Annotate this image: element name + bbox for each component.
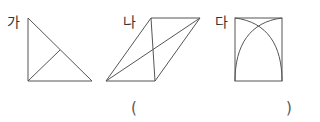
answer-blank[interactable] bbox=[145, 101, 285, 117]
rectangle-arc-right bbox=[235, 18, 282, 81]
figure-da bbox=[235, 18, 282, 81]
rectangle-outline bbox=[235, 18, 282, 81]
answer-close-paren: ) bbox=[286, 101, 292, 116]
figure-ga bbox=[28, 18, 92, 81]
figure-na bbox=[106, 18, 200, 81]
rectangle-arc-left bbox=[235, 18, 282, 81]
answer-open-paren: ( bbox=[131, 101, 137, 116]
triangle-inner-segment bbox=[28, 50, 60, 81]
parallelogram-diagonal-2 bbox=[106, 18, 200, 81]
